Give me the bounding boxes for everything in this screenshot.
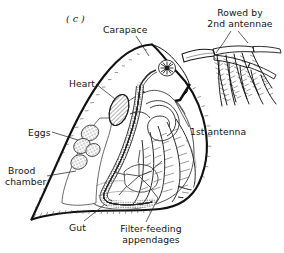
label-carapace: Carapace (103, 24, 147, 35)
label-brood-chamber-line1: Brood (8, 165, 35, 176)
label-1st-antenna: 1st antenna (190, 126, 246, 137)
leader-gut (84, 205, 104, 221)
label-rowed-by-2nd-antennae-line1: Rowed by (204, 7, 276, 18)
daphnia-anatomy-figure: ( c ) Carapace Rowed by 2nd antennae Hea… (0, 0, 284, 253)
panel-identifier: ( c ) (66, 13, 85, 24)
label-heart: Heart (69, 78, 95, 89)
label-brood-chamber-line2: chamber (5, 176, 46, 187)
leader-heart (96, 84, 115, 99)
leader-2nd-antennae-right (238, 31, 248, 43)
label-gut: Gut (69, 222, 86, 233)
second-antennae (182, 46, 281, 106)
label-eggs: Eggs (28, 127, 51, 138)
label-rowed-by-2nd-antennae-line2: 2nd antennae (199, 18, 281, 29)
compound-eye (159, 60, 176, 76)
leader-eggs (52, 132, 78, 140)
label-filter-feeding-line2: appendages (113, 234, 189, 245)
label-filter-feeding-line1: Filter-feeding (113, 223, 189, 234)
